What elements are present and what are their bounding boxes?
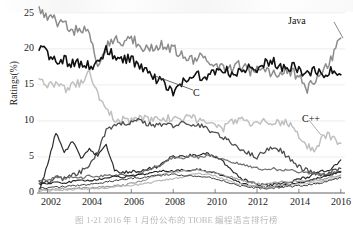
series-line-python <box>39 155 341 181</box>
c-leader-line <box>155 76 193 90</box>
series-line-c- <box>39 134 341 192</box>
y-axis-tick-group: 25 20 15 10 5 0 <box>6 0 34 200</box>
series-line-visual-basic <box>39 119 341 184</box>
y-tick-10: 10 <box>10 115 34 125</box>
x-tick-2016: 2016 <box>318 196 353 207</box>
y-tick-25: 25 <box>10 8 34 18</box>
series-line-c- <box>39 71 341 152</box>
annotation-java: Java <box>288 16 306 26</box>
series-layer <box>39 7 341 191</box>
annotation-c: C <box>193 88 200 98</box>
java-leader-line <box>334 22 343 38</box>
series-canvas <box>37 2 345 194</box>
annotation-cpp: C++ <box>302 114 320 124</box>
series-line-c <box>39 46 341 96</box>
x-tick-2012: 2012 <box>235 196 281 207</box>
y-tick-20: 20 <box>10 43 34 53</box>
x-tick-2002: 2002 <box>28 196 74 207</box>
x-tick-2010: 2010 <box>194 196 240 207</box>
plot-area <box>37 2 345 194</box>
x-tick-2014: 2014 <box>277 196 323 207</box>
x-tick-marks <box>47 189 340 193</box>
x-tick-2006: 2006 <box>111 196 157 207</box>
y-tick-15: 15 <box>10 79 34 89</box>
series-line-perl <box>39 173 341 191</box>
y-tick-5: 5 <box>10 151 34 161</box>
figure-caption: 图 1-21 2016 年 1 月份公布的 TIOBE 编程语言排行榜 <box>0 213 353 225</box>
figure-container: Ratings(%) 25 20 15 10 5 0 2002 2004 200… <box>0 0 353 225</box>
x-tick-2004: 2004 <box>69 196 115 207</box>
x-tick-2008: 2008 <box>152 196 198 207</box>
